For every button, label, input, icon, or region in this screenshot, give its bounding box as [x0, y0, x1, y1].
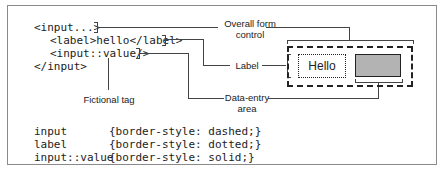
connector-value-c — [188, 98, 224, 99]
code-line-value: <input::value/> — [50, 47, 149, 60]
code-line-input-close: </input> — [34, 60, 87, 73]
label-preview-dotted: Hello — [298, 54, 346, 78]
connector-overall-right — [266, 27, 350, 28]
css-declaration-3: {border-style: solid;} — [109, 151, 255, 164]
code-line-input-open: <input...> — [34, 21, 100, 34]
callout-data-entry-line1: Data-entry — [224, 92, 270, 103]
bracket-label — [162, 35, 166, 46]
callout-data-entry: Data-entry area — [224, 92, 270, 114]
css-declaration-1: {border-style: dashed;} — [109, 125, 261, 138]
label-preview-text: Hello — [308, 59, 335, 73]
value-preview-solid — [355, 54, 401, 77]
callout-fictional: Fictional tag — [78, 94, 140, 105]
connector-overall-down — [349, 27, 350, 40]
connector-value-d — [268, 98, 378, 99]
connector-value-b — [188, 53, 189, 99]
bracket-overall — [287, 40, 414, 44]
connector-fictional — [108, 58, 109, 90]
callout-overall-line2: control — [220, 29, 280, 40]
css-selector-2: label — [34, 138, 67, 151]
connector-label-d — [262, 65, 286, 66]
css-selector-1: input — [34, 125, 67, 138]
connector-overall-left — [98, 27, 218, 28]
connector-label-b — [203, 39, 204, 65]
connector-label-a — [166, 39, 203, 40]
css-selector-3: input::value — [34, 151, 113, 164]
callout-overall: Overall form control — [220, 18, 280, 40]
callout-label: Label — [233, 60, 261, 71]
connector-value-a — [140, 53, 188, 54]
connector-label-c — [203, 65, 230, 66]
callout-data-entry-line2: area — [224, 103, 270, 114]
css-declaration-2: {border-style: dotted;} — [109, 138, 261, 151]
